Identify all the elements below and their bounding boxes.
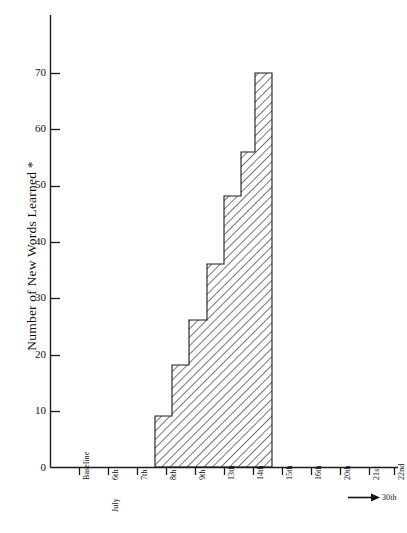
range-arrow-icon [348,494,380,502]
step-histogram-area [155,73,272,467]
x-tick-label-7th: 7th [141,469,149,480]
x-axis-month-label: July [112,498,120,512]
x-axis-range-end-label: 30th [382,494,397,502]
x-tick-label-13th: 13th [228,465,236,480]
x-tick-label-16th: 16th [315,465,323,480]
x-tick-label-20th: 20th [344,465,352,480]
plot-svg [0,0,407,533]
x-tick-label-8th: 8th [170,469,178,480]
x-tick-label-6th: 6th [112,469,120,480]
y-tick-marks [50,74,60,412]
x-tick-label-22nd: 22nd [398,464,406,480]
x-tick-label-baseline: Baseline [83,452,91,480]
x-tick-label-9th: 9th [199,469,207,480]
figure-container: Number of New Words Learned * 70 60 50 4… [0,0,407,533]
x-tick-label-14th: 14th [257,465,265,480]
x-tick-label-15th: 15th [286,465,294,480]
x-tick-label-21st: 21st [373,466,381,480]
